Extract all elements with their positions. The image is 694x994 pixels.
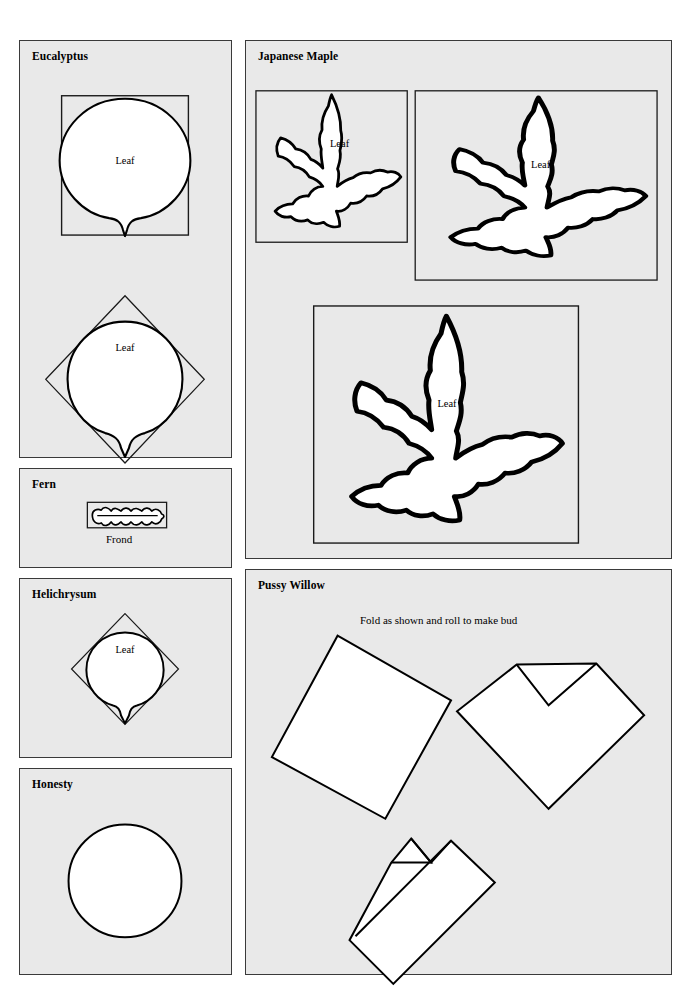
panel-eucalyptus: Eucalyptus Leaf Leaf [19,40,232,458]
eucalyptus-round-leaf-shape [60,99,191,236]
maple-leaf-small-shape [275,95,401,227]
maple-leaf-medium-shape [451,98,646,257]
maple-diagrams: Leaf Leaf Leaf [246,41,671,558]
fern-frond-caption: Frond [106,533,132,545]
honesty-diagram [20,769,231,974]
willow-square-folded-shape [457,664,644,809]
panel-fern: Fern Frond [19,468,232,568]
panel-maple: Japanese Maple Leaf Leaf Leaf [245,40,672,559]
eucalyptus-leaf-label-2: Leaf [115,342,135,353]
fern-frond-shape [92,508,164,526]
panel-helichrysum: Helichrysum Leaf [19,578,232,758]
maple-leaf-label-large: Leaf [437,398,457,409]
panel-honesty: Honesty [19,768,232,975]
fern-diagram [20,469,231,567]
eucalyptus-diagrams: Leaf Leaf [20,41,231,457]
helichrysum-leaf-label: Leaf [115,644,135,655]
maple-leaf-large-shape [352,316,563,521]
honesty-disc-shape [69,824,182,937]
template-sheet: Eucalyptus Leaf Leaf Fern Frond Helichry… [0,0,694,994]
eucalyptus-leaf-label-1: Leaf [115,155,135,166]
willow-square-rolled-shape [350,839,495,984]
panel-pussy-willow: Pussy Willow Fold as shown and roll to m… [245,569,672,975]
maple-leaf-label-small: Leaf [330,138,350,149]
pussy-willow-diagrams [246,570,671,974]
willow-square-flat-shape [272,636,451,819]
maple-leaf-label-medium: Leaf [531,159,551,170]
helichrysum-diagram: Leaf [20,579,231,757]
